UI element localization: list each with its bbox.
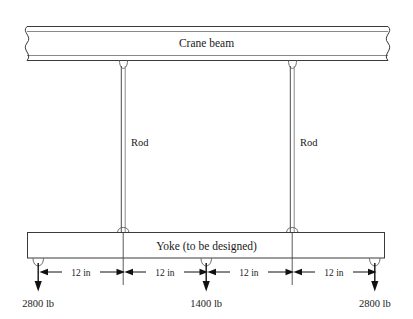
rod-left-group: Rod: [118, 61, 150, 259]
diagram-canvas: Crane beam Rod Rod Yoke (to: [0, 0, 413, 319]
dimension-segment-1-arrow-left: [39, 269, 48, 275]
yoke-group: Yoke (to be designed): [28, 233, 385, 259]
load-arrow-left-head: [35, 281, 42, 292]
rod-left-label: Rod: [131, 137, 149, 148]
load-label-left: 2800 lb: [22, 298, 54, 309]
dimension-segment-2: 12 in: [124, 264, 208, 279]
dimension-segment-4: 12 in: [293, 264, 376, 279]
crane-beam-label: Crane beam: [179, 37, 234, 49]
dimension-segment-3: 12 in: [207, 264, 294, 279]
dimension-segment-4-label: 12 in: [324, 268, 344, 278]
load-label-right: 2800 lb: [359, 298, 391, 309]
dimension-segment-1-label: 12 in: [71, 268, 91, 278]
dimension-segment-2-arrow-left: [124, 269, 133, 275]
dimension-segment-3-arrow-left: [207, 269, 216, 275]
rod-right-top-eye: [289, 61, 297, 69]
rod-right-group: Rod: [287, 61, 319, 259]
dimension-line-group: 12 in 12 in 12 in: [39, 258, 376, 285]
crane-beam-group: Crane beam: [25, 27, 389, 61]
dimension-segment-2-label: 12 in: [155, 268, 175, 278]
load-arrow-center-head: [203, 281, 210, 292]
rod-right-bottom-cap: [287, 227, 299, 232]
dimension-segment-1-arrow-right: [117, 269, 126, 275]
load-arrow-right-head: [371, 281, 378, 292]
rod-right-label: Rod: [300, 137, 318, 148]
dimension-segment-4-arrow-left: [293, 269, 302, 275]
dimension-segment-1: 12 in: [39, 264, 125, 279]
load-labels-group: 2800 lb 1400 lb 2800 lb: [22, 298, 390, 309]
crane-beam-yoke-diagram: Crane beam Rod Rod Yoke (to: [0, 0, 413, 319]
dimension-segment-3-arrow-right: [286, 269, 295, 275]
rod-left-top-eye: [120, 61, 128, 69]
load-label-center: 1400 lb: [190, 298, 222, 309]
rod-left-bottom-cap: [118, 227, 130, 232]
dimension-segment-3-label: 12 in: [239, 268, 259, 278]
yoke-label: Yoke (to be designed): [156, 240, 257, 253]
